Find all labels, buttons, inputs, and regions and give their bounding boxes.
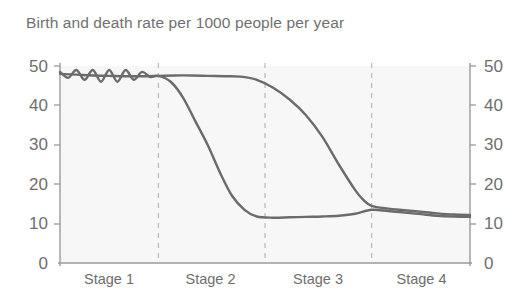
plot-area — [0, 0, 529, 301]
demographic-transition-chart: Birth and death rate per 1000 people per… — [0, 0, 529, 301]
